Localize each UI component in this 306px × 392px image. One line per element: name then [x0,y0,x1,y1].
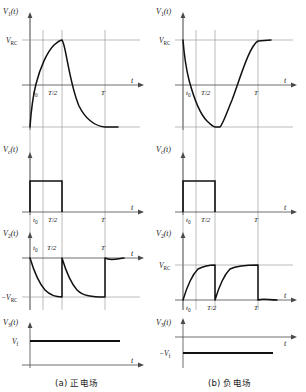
tick-thalf-vc-a: T/2 [48,216,58,224]
y-axis-arrow-v2-a [28,232,33,238]
plot-v2-negative: V2(t) t VRC t0 T/2 T [156,229,297,313]
axis-label-v3-b: V3(t) [156,318,172,328]
x-axis-name-v2-b: t [284,291,287,300]
x-axis-arrow-v1-b [291,83,297,88]
x-axis-name-v2-a: t [131,249,134,258]
tick-thalf-v2-b: T/2 [207,304,217,312]
x-axis-arrow-v2-b [291,298,297,303]
tick-t0-vc-a: t0 [33,216,38,225]
panel-caption-positive: (a) 正电场 [0,376,153,388]
panel-positive-field: V1(t) t VRC t0 T/2 [0,0,153,392]
panel-negative-field: V1(t) t VRC t0 T/2 T [153,0,306,392]
plot-vc-positive: Vc(t) t t0 T/2 T [3,145,144,225]
axis-label-v2-a: V2(t) [3,229,19,239]
value-label-minus-vf-b: −Vf [159,349,171,359]
value-label-vrc-v2-b: VRC [159,261,171,271]
y-axis-arrow-vc-a [28,152,33,158]
tick-t0-vc-b: t0 [186,216,191,225]
x-axis-name-v3-b: t [284,339,287,348]
x-axis-arrow-v1-a [138,83,144,88]
value-label-vrc-v1-a: VRC [6,36,18,46]
x-axis-name-vc-a: t [131,203,134,212]
plot-v2-positive: V2(t) t −VRC t0 T/2 T [1,229,144,310]
axis-label-vc-a: Vc(t) [3,145,18,155]
value-label-minus-vrc-a: −VRC [1,293,18,303]
tick-thalf-v2-a: T/2 [47,244,57,252]
x-axis-arrow-v2-a [138,256,144,261]
axis-label-v2-b: V2(t) [156,229,172,239]
waveform-vc-a [30,181,62,212]
axis-label-v1-b: V1(t) [156,7,172,17]
value-label-vrc-v1-b: VRC [159,36,171,46]
panel-caption-negative: (b) 负电场 [153,376,306,388]
axis-label-v3-a: V3(t) [3,318,19,328]
waveform-figure: V1(t) t VRC t0 T/2 [0,0,306,392]
tick-thalf-vc-b: T/2 [201,216,211,224]
x-axis-name-vc-b: t [284,203,287,212]
axis-label-v1-a: V1(t) [3,7,19,17]
x-axis-name-v1-a: t [131,76,134,85]
plot-vc-negative: Vc(t) t t0 T/2 T [156,145,297,225]
tick-thalf-v1-a: T/2 [48,89,58,97]
waveform-vc-b [183,181,215,212]
plot-v1-negative: V1(t) t VRC t0 T/2 T [156,7,297,130]
tick-thalf-v1-b: T/2 [201,89,211,97]
y-axis-arrow-v2-b [181,232,186,238]
vertical-guides-b [183,18,258,310]
x-axis-name-v3-a: t [131,356,134,365]
x-axis-arrow-v3-b [291,335,297,340]
tick-t0-v2-b: t0 [186,304,191,313]
y-axis-arrow-v3-b [181,318,186,324]
y-axis-arrow-vc-b [181,152,186,158]
value-label-vf-a: Vf [12,337,19,347]
plot-v3-positive: V3(t) t Vf [3,318,144,368]
waveform-v2-b [183,265,277,300]
y-axis-arrow-v1-b [181,12,186,18]
x-axis-name-v1-b: t [284,76,287,85]
plot-v3-negative: V3(t) t −Vf [156,318,297,368]
y-axis-arrow-v1-a [28,12,33,18]
x-axis-arrow-vc-a [138,210,144,215]
waveform-v2-a [30,258,124,297]
y-axis-arrow-v3-a [28,322,33,328]
x-axis-arrow-vc-b [291,210,297,215]
axis-label-vc-b: Vc(t) [156,145,171,155]
tick-t0-v1-b: t0 [186,89,191,98]
tick-t0-v2-a: t0 [33,244,38,253]
x-axis-arrow-v3-a [138,363,144,368]
plot-v1-positive: V1(t) t VRC t0 T/2 [3,7,144,130]
